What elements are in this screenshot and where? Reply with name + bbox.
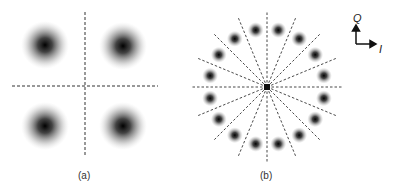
i-axis-label: I [379, 43, 382, 55]
constellation-spot [99, 102, 147, 150]
figure-canvas [0, 0, 394, 194]
constellation-spot [316, 68, 332, 84]
constellation-spot [248, 22, 264, 38]
panel-b-label: (b) [260, 170, 272, 181]
origin-marker [264, 84, 270, 90]
q-arrow-icon [353, 25, 360, 31]
constellation-spot [270, 22, 286, 38]
constellation-spot [291, 127, 307, 143]
constellation-spot [307, 47, 323, 63]
constellation-spot [99, 22, 147, 70]
constellation-spot [270, 136, 286, 152]
constellation-spot [307, 111, 323, 127]
constellation-spot [291, 31, 307, 47]
constellation-spot [21, 102, 69, 150]
i-arrow-icon [370, 41, 376, 48]
panel-a-label: (a) [78, 170, 90, 181]
panel-a-constellation [12, 12, 158, 157]
constellation-spot [202, 90, 218, 106]
panel-b-constellation [191, 11, 343, 163]
constellation-spot [202, 68, 218, 84]
constellation-spot [227, 31, 243, 47]
q-axis-label: Q [353, 12, 362, 24]
constellation-spot [211, 47, 227, 63]
constellation-spot [21, 21, 69, 69]
constellation-spot [211, 111, 227, 127]
constellation-spot [248, 136, 264, 152]
constellation-spot [227, 127, 243, 143]
constellation-spot [316, 90, 332, 106]
iq-axis-indicator [353, 25, 377, 48]
